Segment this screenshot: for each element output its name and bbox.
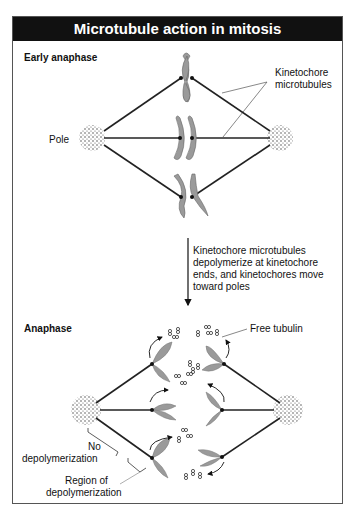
pole-label: Pole	[49, 134, 69, 145]
chromosomes-anaphase	[152, 342, 224, 478]
microtubules-anaphase	[96, 364, 280, 458]
pointer-line	[222, 329, 247, 337]
arrow-text-line-1: Kinetochore microtubules	[193, 245, 306, 256]
free-tubulin-label: Free tubulin	[250, 323, 303, 334]
pole-left-anaphase	[71, 395, 101, 425]
pointer-line	[222, 82, 267, 93]
arrow-text-line-3: ends, and kinetochores move	[193, 269, 324, 280]
no-depol-label-2: depolymerization	[22, 453, 98, 464]
no-depol-label-1: No	[88, 441, 101, 452]
arrow-text-line-4: toward poles	[193, 281, 250, 292]
region-label-1: Region of	[65, 475, 108, 486]
region-label-2: depolymerization	[46, 487, 122, 498]
pole-right	[267, 125, 293, 151]
early-anaphase-label: Early anaphase	[24, 52, 98, 63]
pole-left	[79, 125, 105, 151]
arrow-text-line-2: depolymerize at kinetochore	[193, 257, 319, 268]
mitosis-diagram: Early anaphase Pole Kinetochore microtub…	[0, 0, 346, 514]
anaphase-label: Anaphase	[24, 323, 72, 334]
kinetochore-mt-label-2: microtubules	[275, 79, 332, 90]
pointer-line	[223, 82, 267, 137]
kinetochore-mt-label-1: Kinetochore	[275, 67, 329, 78]
